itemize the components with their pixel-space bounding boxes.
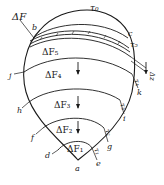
point-c: c [128,29,133,38]
label-tau-0: τ₀ [90,3,99,13]
point-e: e [96,159,101,168]
point-a: a [75,164,80,173]
arrow-delta-f4 [76,62,80,75]
arc-f-g [43,118,104,128]
shear-band-lower2 [30,31,129,48]
point-g: g [107,142,112,151]
arrow-delta-f3 [76,96,80,109]
label-tau-5: τ₅ [130,40,138,49]
label-delta-f2: ΔF₂ [56,125,73,135]
point-j: j [7,71,12,80]
leader-h [22,102,29,108]
label-delta-z: Δz [148,71,156,81]
leader-j [14,72,24,74]
label-delta-f5: ΔF₅ [42,47,59,57]
label-delta-f: ΔF [11,11,27,22]
label-tau-1: τ₁ [92,147,102,156]
point-k: k [137,88,142,97]
point-f: f [30,133,36,142]
point-b: b [32,23,37,32]
arrow-delta-f2 [76,121,80,134]
arc-h-i [29,89,120,102]
leader-f [36,128,43,134]
point-i: i [123,114,126,123]
hopper-slice-diagram: ΔF τ₀ τ₅ Δz τ₄ τ₃ τ₂ τ₁ ΔF₅ ΔF₄ ΔF₃ ΔF₂ … [0,0,164,185]
label-delta-f1: ΔF₁ [67,144,83,154]
label-tau-3: τ₃ [118,102,128,111]
leader-d [52,150,58,154]
delta-z-arrowhead [144,70,148,74]
point-h: h [17,106,22,115]
label-delta-f4: ΔF₄ [45,70,62,80]
label-delta-f3: ΔF₃ [54,100,71,110]
label-tau-4: τ₄ [132,78,142,87]
point-d: d [45,151,50,160]
label-tau-2: τ₂ [103,128,113,137]
